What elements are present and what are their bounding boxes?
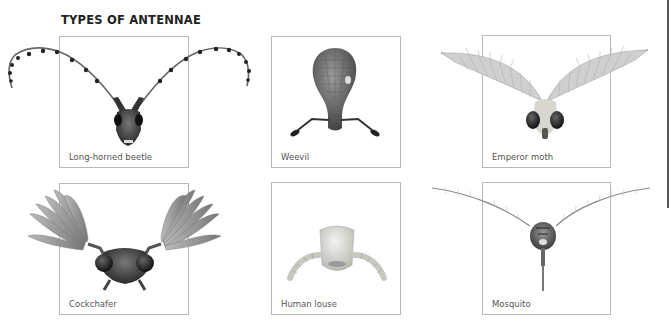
panel-label: Human louse bbox=[281, 299, 337, 309]
panel-mosquito: Mosquito bbox=[482, 182, 611, 315]
panel-long-horned-beetle: Long-horned beetle bbox=[59, 36, 189, 168]
panel-label: Mosquito bbox=[492, 299, 531, 309]
page-title: TYPES OF ANTENNAE bbox=[61, 13, 201, 27]
panel-label: Weevil bbox=[281, 152, 309, 162]
panel-weevil: Weevil bbox=[271, 36, 401, 168]
panel-label: Emperor moth bbox=[492, 152, 553, 162]
panel-label: Cockchafer bbox=[69, 299, 117, 309]
panel-emperor-moth: Emperor moth bbox=[482, 35, 611, 168]
page-edge-divider bbox=[667, 0, 669, 208]
panel-label: Long-horned beetle bbox=[69, 152, 152, 162]
panel-human-louse: Human louse bbox=[271, 182, 401, 315]
panel-cockchafer: Cockchafer bbox=[59, 183, 189, 315]
